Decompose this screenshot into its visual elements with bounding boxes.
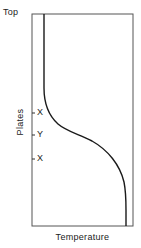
top-label: Top xyxy=(3,7,18,17)
plot-frame xyxy=(32,14,133,226)
tick-label-x-upper: X xyxy=(37,107,43,117)
temperature-curve xyxy=(44,14,126,226)
tick-label-y: Y xyxy=(37,129,43,139)
tick-label-x-lower: X xyxy=(37,153,43,163)
x-axis-label: Temperature xyxy=(0,232,141,242)
y-axis-label: Plates xyxy=(15,109,25,136)
